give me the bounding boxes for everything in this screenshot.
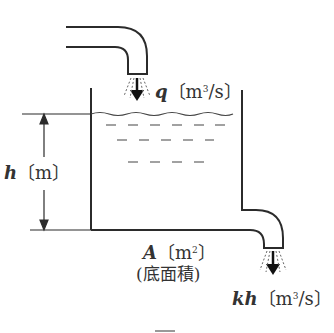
inflow-arrow-icon [124, 78, 150, 101]
outflow-label: kh〔m3/s〕 [232, 290, 332, 308]
height-label: h〔m〕 [4, 164, 70, 182]
area-label: A〔m2〕 [143, 244, 216, 262]
water-surface [91, 113, 233, 116]
inflow-label: q〔m3/s〕 [155, 83, 242, 101]
tank-bottom [91, 90, 283, 248]
area-note: (底面積) [136, 266, 200, 283]
water-dashes [106, 125, 225, 162]
inflow-pipe [66, 27, 147, 74]
outflow-arrow-icon [260, 251, 286, 275]
tank-diagram: q〔m3/s〕 h〔m〕 A〔m2〕 (底面積) kh〔m3/s〕 [0, 0, 334, 333]
